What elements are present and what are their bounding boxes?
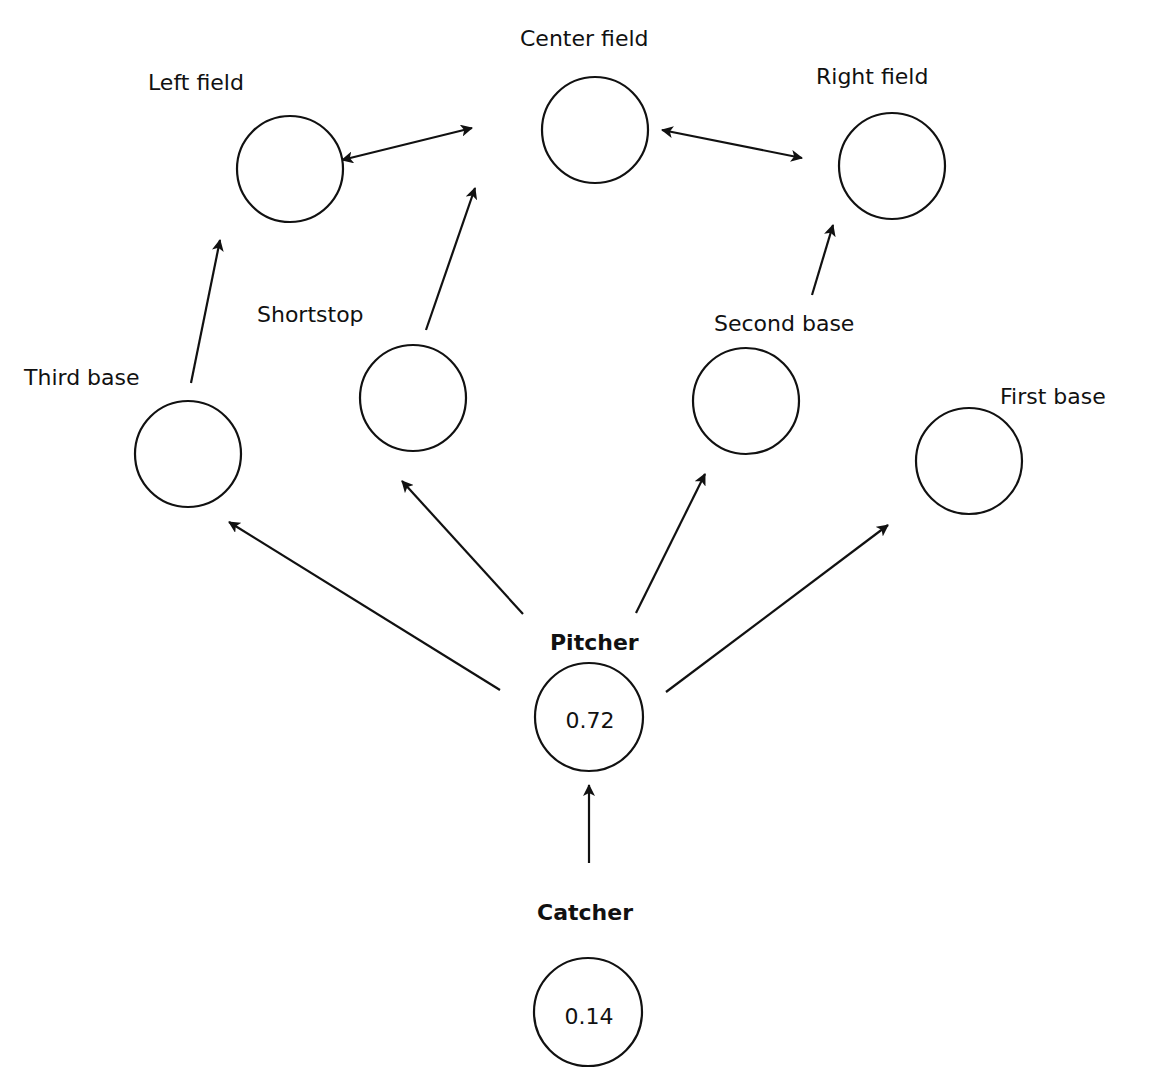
pitcher-value: 0.72: [566, 708, 615, 733]
baseball-position-diagram: Left field Center field Right field Thir…: [0, 0, 1149, 1082]
edge-secondbase-rightfield: [812, 225, 833, 295]
right-field-circle: [839, 113, 945, 219]
edge-pitcher-firstbase: [666, 525, 888, 692]
edge-pitcher-thirdbase: [229, 522, 500, 690]
node-catcher: Catcher 0.14: [534, 900, 642, 1066]
node-first-base: First base: [916, 384, 1106, 514]
third-base-label: Third base: [23, 365, 140, 390]
left-field-circle: [237, 116, 343, 222]
shortstop-circle: [360, 345, 466, 451]
center-field-circle: [542, 77, 648, 183]
shortstop-label: Shortstop: [257, 302, 364, 327]
center-field-label: Center field: [520, 26, 649, 51]
left-field-label: Left field: [148, 70, 244, 95]
pitcher-label: Pitcher: [550, 630, 639, 655]
second-base-circle: [693, 348, 799, 454]
third-base-circle: [135, 401, 241, 507]
node-shortstop: Shortstop: [257, 302, 466, 451]
catcher-label: Catcher: [537, 900, 633, 925]
second-base-label: Second base: [714, 311, 854, 336]
edge-leftfield-centerfield: [342, 128, 472, 160]
edge-pitcher-shortstop: [402, 481, 523, 614]
node-center-field: Center field: [520, 26, 649, 183]
node-left-field: Left field: [148, 70, 343, 222]
first-base-label: First base: [1000, 384, 1106, 409]
first-base-circle: [916, 408, 1022, 514]
right-field-label: Right field: [816, 64, 928, 89]
catcher-value: 0.14: [565, 1004, 614, 1029]
edge-centerfield-rightfield: [662, 130, 802, 158]
node-third-base: Third base: [23, 365, 241, 507]
node-pitcher: Pitcher 0.72: [535, 630, 643, 771]
node-right-field: Right field: [816, 64, 945, 219]
edge-thirdbase-leftfield: [191, 240, 220, 383]
edges: [191, 128, 888, 863]
edge-pitcher-secondbase: [636, 474, 705, 613]
node-second-base: Second base: [693, 311, 854, 454]
edge-shortstop-centerfield: [426, 188, 475, 330]
